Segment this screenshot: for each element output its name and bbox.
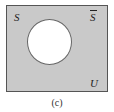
complement-label-text: S	[90, 11, 96, 23]
complement-label: S	[90, 12, 96, 23]
set-s-circle	[27, 19, 72, 65]
figure-caption: (c)	[0, 97, 114, 108]
overbar	[90, 10, 97, 11]
set-s-label: S	[14, 12, 20, 23]
universe-label: U	[90, 78, 98, 89]
